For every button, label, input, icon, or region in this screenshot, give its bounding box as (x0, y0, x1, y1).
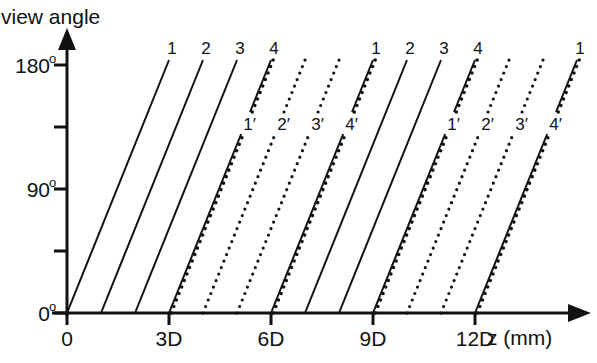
x-axis-label: z (mm) (487, 326, 552, 349)
line-number-label: 1 (371, 39, 380, 58)
line-number-label: 1 (167, 39, 176, 58)
line-number-label: 1 (575, 39, 584, 58)
primed-line-label: 1′ (447, 115, 460, 134)
x-tick-label: 6D (258, 327, 285, 350)
primed-line-label: 2′ (481, 115, 494, 134)
degree-symbol: o (49, 51, 56, 66)
primed-line-label: 4′ (549, 115, 562, 134)
x-tick-label: 9D (360, 327, 387, 350)
primed-line-label: 4′ (345, 115, 358, 134)
y-tick-label: 180 (15, 54, 50, 77)
y-axis-label: view angle (1, 5, 100, 28)
y-ticks: 180o90o0o (15, 51, 67, 325)
line-number-label: 3 (439, 39, 448, 58)
view-angle-diagram: 180o90o0o 03D6D9D12D 1234123411′2′3′4′1′… (0, 0, 597, 363)
trajectory-lines (67, 60, 579, 313)
x-tick-label: 0 (61, 327, 73, 350)
primed-line-label: 1′ (243, 115, 256, 134)
y-axis-arrow-icon (58, 28, 76, 50)
degree-symbol: o (49, 175, 56, 190)
line-number-label: 4 (473, 39, 482, 58)
axes (52, 28, 591, 322)
primed-line-label: 2′ (277, 115, 290, 134)
degree-symbol: o (49, 299, 56, 314)
line-number-label: 2 (201, 39, 210, 58)
line-number-label: 2 (405, 39, 414, 58)
primed-line-label: 3′ (515, 115, 528, 134)
line-number-label: 3 (235, 39, 244, 58)
x-tick-label: 3D (156, 327, 183, 350)
x-axis-arrow-icon (568, 304, 591, 322)
line-labels: 1234123411′2′3′4′1′2′3′4′ (167, 39, 584, 134)
y-tick-label: 90 (27, 178, 50, 201)
line-solid (67, 60, 169, 313)
x-ticks: 03D6D9D12D (61, 313, 494, 350)
primed-line-label: 3′ (311, 115, 324, 134)
line-number-label: 4 (269, 39, 278, 58)
